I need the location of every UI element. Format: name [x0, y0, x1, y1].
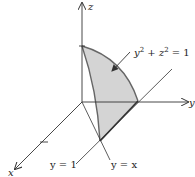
plane-y-eq-x-label: y = x	[110, 159, 137, 170]
surface-equation-label: y2 + z2 = 1	[133, 46, 190, 58]
plane-y-eq-1-label: y = 1	[49, 159, 77, 170]
label-pointer-arrow	[112, 52, 130, 71]
y-axis-label: y	[188, 97, 195, 108]
z-axis-label: z	[87, 1, 94, 12]
x-axis-label: x	[8, 167, 14, 177]
diagram-canvas: z y x y2 + z2 = 1 y = 1 y = x	[0, 0, 195, 177]
